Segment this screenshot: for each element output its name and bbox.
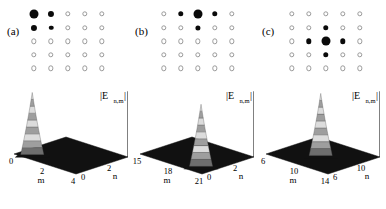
lattice-grid-a xyxy=(28,8,124,82)
peak-contour-band xyxy=(192,146,209,153)
lattice-site-empty xyxy=(212,52,217,57)
lattice-site-empty xyxy=(195,66,200,71)
peak-contour-band xyxy=(25,127,39,134)
lattice-site-empty xyxy=(31,38,36,43)
lattice-site-empty xyxy=(178,25,183,30)
lattice-site-empty xyxy=(161,38,166,43)
lattice-site-empty xyxy=(212,25,217,30)
z-axis-title: |En,m| xyxy=(352,90,378,104)
x-tick-label: 15 xyxy=(133,156,142,166)
lattice-site-occupied xyxy=(194,10,203,19)
panel-b: (b) 0123|En,m|151821m024n xyxy=(126,0,254,209)
figure-root: (a) 0123|En,m|024m024n (b) 0123|En,m|151… xyxy=(0,0,386,209)
lattice-site-empty xyxy=(82,11,87,16)
y-axis-label: n xyxy=(113,171,118,181)
lattice-site-empty xyxy=(48,66,53,71)
lattice-c: (c) xyxy=(252,0,380,92)
lattice-site-occupied xyxy=(340,38,345,43)
lattice-site-empty xyxy=(229,38,234,43)
lattice-site-empty xyxy=(161,25,166,30)
lattice-site-empty xyxy=(48,52,53,57)
lattice-site-occupied xyxy=(322,37,331,46)
lattice-site-empty xyxy=(323,66,328,71)
z-axis-title: |En,m| xyxy=(100,90,126,104)
x-tick-label: 4 xyxy=(71,176,76,186)
peak-contour-band xyxy=(30,99,34,106)
lattice-site-empty xyxy=(178,66,183,71)
lattice-site-empty xyxy=(161,66,166,71)
lattice-site-empty xyxy=(65,66,70,71)
y-tick-label: 0 xyxy=(81,172,85,182)
lattice-site-empty xyxy=(357,38,362,43)
y-tick-label: 0 xyxy=(207,172,211,182)
peak-contour-band xyxy=(319,100,323,107)
lattice-site-empty xyxy=(289,25,294,30)
lattice-site-empty xyxy=(82,25,87,30)
lattice-site-empty xyxy=(306,11,311,16)
x-axis-label: m xyxy=(37,175,44,185)
lattice-site-occupied xyxy=(31,25,37,31)
panel-a: (a) 0123|En,m|024m024n xyxy=(0,0,128,209)
lattice-site-empty xyxy=(195,52,200,57)
lattice-site-empty xyxy=(31,66,36,71)
peak-contour-band xyxy=(317,107,324,114)
peak-contour-band xyxy=(198,118,205,125)
z-axis-title: |En,m| xyxy=(226,90,252,104)
peak-contour-band xyxy=(191,152,211,159)
peak-contour-band xyxy=(314,128,328,135)
lattice-site-empty xyxy=(161,11,166,16)
z-axis-title-sub: n,m xyxy=(366,97,376,104)
lattice-site-empty xyxy=(357,25,362,30)
lattice-site-empty xyxy=(357,11,362,16)
lattice-site-empty xyxy=(340,52,345,57)
lattice-a: (a) xyxy=(0,0,128,92)
lattice-site-empty xyxy=(99,52,104,57)
lattice-site-occupied xyxy=(323,25,328,30)
lattice-site-empty xyxy=(31,52,36,57)
x-axis-label: m xyxy=(163,175,170,185)
lattice-site-empty xyxy=(65,38,70,43)
y-axis-label: n xyxy=(239,171,244,181)
peak-contour-band xyxy=(195,132,207,139)
surface-plot-c: 0123|En,m|61014m61014n xyxy=(252,88,380,209)
lattice-site-occupied xyxy=(306,38,311,43)
x-axis-label: m xyxy=(289,175,296,185)
panel-c: (c) 0123|En,m|61014m61014n xyxy=(252,0,380,209)
lattice-site-empty xyxy=(323,11,328,16)
z-axis-title-main: |E xyxy=(226,90,234,101)
panel-label-a: (a) xyxy=(7,25,19,37)
peak-contour-band xyxy=(316,114,325,121)
lattice-site-empty xyxy=(161,52,166,57)
lattice-site-empty xyxy=(229,25,234,30)
lattice-site-empty xyxy=(289,11,294,16)
lattice-site-empty xyxy=(289,52,294,57)
lattice-site-empty xyxy=(306,66,311,71)
lattice-site-occupied xyxy=(195,25,200,30)
lattice-site-empty xyxy=(340,11,345,16)
y-tick-label: 6 xyxy=(333,172,337,182)
y-tick-label: 2 xyxy=(233,163,237,173)
lattice-site-empty xyxy=(65,52,70,57)
lattice-b: (b) xyxy=(126,0,254,92)
lattice-site-empty xyxy=(229,52,234,57)
lattice-site-empty xyxy=(306,52,311,57)
lattice-site-occupied xyxy=(178,11,183,16)
lattice-site-empty xyxy=(99,25,104,30)
lattice-site-occupied xyxy=(48,11,54,17)
z-axis-title-main: |E xyxy=(100,90,108,101)
x-tick-label: 14 xyxy=(321,176,330,186)
peak-contour-band xyxy=(320,93,322,100)
lattice-site-empty xyxy=(357,52,362,57)
lattice-site-empty xyxy=(229,11,234,16)
peak-contour-band xyxy=(21,148,44,155)
peak-contour-band xyxy=(190,159,213,166)
lattice-site-occupied xyxy=(323,52,328,57)
lattice-site-occupied xyxy=(212,11,217,16)
lattice-site-empty xyxy=(99,11,104,16)
lattice-site-empty xyxy=(178,52,183,57)
lattice-site-empty xyxy=(65,11,70,16)
peak-contour-band xyxy=(29,106,36,113)
lattice-site-empty xyxy=(99,38,104,43)
lattice-site-empty xyxy=(82,38,87,43)
z-axis-title-sub: n,m xyxy=(240,97,250,104)
